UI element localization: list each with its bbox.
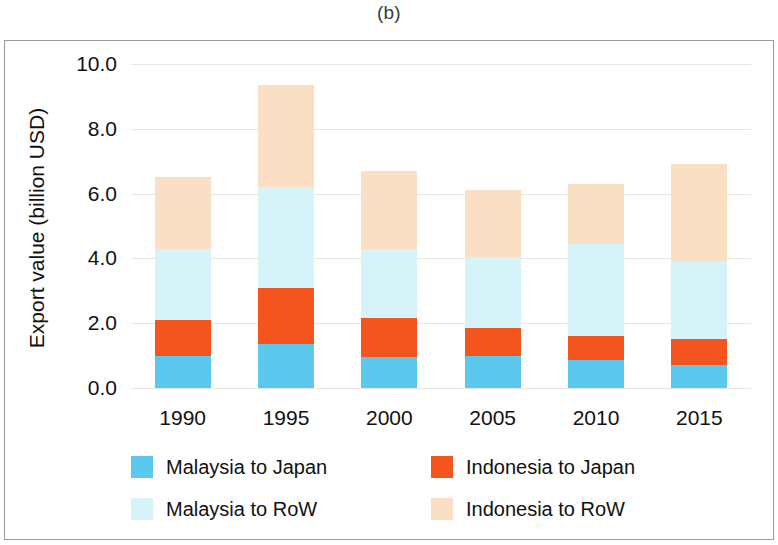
x-axis-tick-label: 2010	[573, 406, 620, 430]
bar-segment[interactable]	[361, 171, 417, 249]
bar-segment[interactable]	[155, 249, 211, 320]
y-axis-tick-label: 2.0	[88, 311, 117, 335]
bar-group[interactable]: 2015	[671, 164, 727, 388]
bar-segment[interactable]	[465, 356, 521, 388]
legend-swatch-icon	[131, 498, 153, 520]
bar-segment[interactable]	[155, 356, 211, 388]
bar-segment[interactable]	[568, 244, 624, 336]
x-axis-tick-label: 2000	[366, 406, 413, 430]
bar-segment[interactable]	[361, 318, 417, 357]
bar-group[interactable]: 2000	[361, 171, 417, 388]
bar-segment[interactable]	[671, 365, 727, 388]
bar-segment[interactable]	[671, 262, 727, 340]
bar-segment[interactable]	[671, 164, 727, 261]
gridline	[131, 64, 751, 65]
gridline	[131, 388, 751, 389]
legend-label: Malaysia to Japan	[166, 456, 327, 479]
bar-segment[interactable]	[155, 320, 211, 356]
legend-item[interactable]: Indonesia to RoW	[431, 498, 625, 521]
bar-segment[interactable]	[155, 177, 211, 248]
chart-legend: Malaysia to JapanIndonesia to JapanMalay…	[131, 446, 691, 530]
gridline	[131, 323, 751, 324]
bar-segment[interactable]	[258, 288, 314, 345]
y-axis-tick-label: 0.0	[88, 376, 117, 400]
gridline	[131, 129, 751, 130]
bar-segment[interactable]	[568, 336, 624, 360]
legend-label: Indonesia to Japan	[466, 456, 635, 479]
y-axis-tick-label: 10.0	[76, 52, 117, 76]
legend-row: Malaysia to JapanIndonesia to Japan	[131, 446, 691, 488]
bar-group[interactable]: 1990	[155, 177, 211, 388]
y-axis-tick-label: 8.0	[88, 117, 117, 141]
x-axis-tick-label: 2015	[676, 406, 723, 430]
y-axis-tick-label: 4.0	[88, 246, 117, 270]
chart-panel: Export value (billion USD) 0.02.04.06.08…	[4, 40, 774, 540]
x-axis-tick-label: 1990	[159, 406, 206, 430]
legend-row: Malaysia to RoWIndonesia to RoW	[131, 488, 691, 530]
figure-title: (b)	[0, 2, 778, 24]
bar-segment[interactable]	[258, 85, 314, 187]
legend-label: Malaysia to RoW	[166, 498, 317, 521]
legend-swatch-icon	[431, 456, 453, 478]
bar-segment[interactable]	[465, 328, 521, 356]
legend-item[interactable]: Malaysia to Japan	[131, 456, 431, 479]
gridline	[131, 258, 751, 259]
legend-swatch-icon	[131, 456, 153, 478]
bar-group[interactable]: 2010	[568, 184, 624, 388]
bar-group[interactable]: 2005	[465, 190, 521, 388]
plot-area: 0.02.04.06.08.010.0 19901995200020052010…	[131, 64, 751, 388]
bar-segment[interactable]	[258, 187, 314, 287]
bar-segment[interactable]	[361, 357, 417, 388]
gridline	[131, 194, 751, 195]
legend-label: Indonesia to RoW	[466, 498, 625, 521]
bar-segment[interactable]	[568, 184, 624, 244]
bar-segment[interactable]	[258, 344, 314, 388]
y-axis-tick-label: 6.0	[88, 182, 117, 206]
bar-segment[interactable]	[361, 249, 417, 319]
legend-item[interactable]: Indonesia to Japan	[431, 456, 635, 479]
bar-segment[interactable]	[671, 339, 727, 365]
x-axis-tick-label: 1995	[263, 406, 310, 430]
legend-swatch-icon	[431, 498, 453, 520]
bar-segment[interactable]	[465, 190, 521, 256]
bar-segment[interactable]	[568, 360, 624, 388]
bar-group[interactable]: 1995	[258, 85, 314, 388]
y-axis-title: Export value (billion USD)	[25, 78, 49, 378]
bar-segment[interactable]	[465, 257, 521, 328]
x-axis-tick-label: 2005	[469, 406, 516, 430]
legend-item[interactable]: Malaysia to RoW	[131, 498, 431, 521]
